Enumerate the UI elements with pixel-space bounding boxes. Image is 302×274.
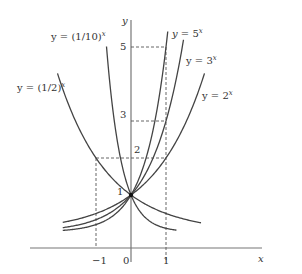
curve-y-3-x bbox=[63, 40, 184, 228]
y-axis-label: y bbox=[121, 15, 128, 26]
x-tick-1: 1 bbox=[163, 255, 169, 266]
label-5x: y = 5x bbox=[171, 27, 203, 39]
label-half-x: y = (1/2)x bbox=[16, 81, 65, 93]
label-tenth-x: y = (1/10)x bbox=[50, 30, 106, 42]
label-2x: y = 2x bbox=[201, 89, 233, 101]
plot-area: y x −1 0 1 1 2 3 5 y = 5x y = 3x y = 2x … bbox=[0, 0, 302, 274]
y-tick-3: 3 bbox=[120, 109, 126, 120]
x-axis-label: x bbox=[258, 253, 264, 264]
exponential-functions-chart: y x −1 0 1 1 2 3 5 y = 5x y = 3x y = 2x … bbox=[0, 0, 302, 274]
y-tick-2: 2 bbox=[134, 144, 140, 155]
y-tick-1: 1 bbox=[117, 186, 123, 197]
x-tick-0: 0 bbox=[123, 255, 129, 266]
label-3x: y = 3x bbox=[185, 54, 217, 66]
common-point bbox=[129, 193, 133, 197]
y-tick-5: 5 bbox=[120, 41, 126, 52]
x-tick-neg1: −1 bbox=[92, 255, 107, 266]
curve-y-1-2-x bbox=[58, 73, 202, 222]
